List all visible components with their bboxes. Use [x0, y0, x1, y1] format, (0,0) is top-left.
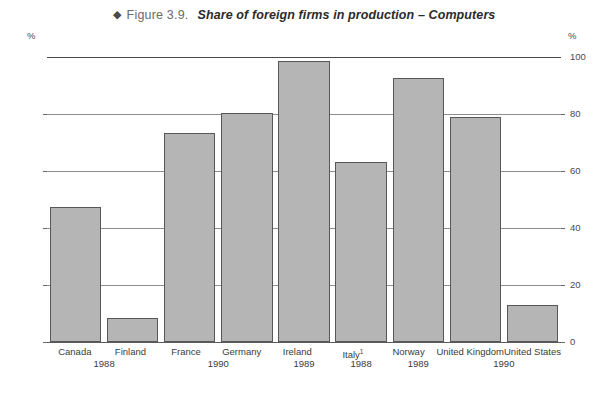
y-tick-label-right-20: 20 — [570, 280, 608, 290]
footnote-marker: 1 — [360, 348, 364, 355]
bar-series — [47, 57, 561, 342]
x-axis-label-ireland: Ireland — [270, 346, 326, 357]
y-axis-unit-left: % — [27, 30, 35, 41]
y-tick-label-right-80: 80 — [570, 109, 608, 119]
x-axis-year-labels: 198819901989198819891990 — [47, 358, 561, 372]
bar-united-kingdom[interactable] — [450, 117, 501, 342]
bar-slot-italy — [333, 57, 390, 342]
bar-ireland[interactable] — [278, 61, 329, 342]
y-tick-label-right-100: 100 — [570, 52, 608, 62]
y-tick-label-right-40: 40 — [570, 223, 608, 233]
bar-united-states[interactable] — [507, 305, 558, 342]
bar-slot-france — [161, 57, 218, 342]
x-axis-label-canada: Canada — [47, 346, 103, 357]
x-axis-label-france: France — [158, 346, 214, 357]
bar-slot-canada — [47, 57, 104, 342]
figure-number-label: Figure 3.9. — [127, 8, 189, 22]
y-tick-mark-right-80 — [561, 114, 565, 115]
y-tick-mark-left-0 — [43, 342, 47, 343]
bar-slot-ireland — [275, 57, 332, 342]
y-tick-mark-right-0 — [561, 342, 565, 343]
y-tick-mark-right-20 — [561, 285, 565, 286]
figure-title-row: ◆ Figure 3.9. Share of foreign firms in … — [0, 8, 608, 22]
bar-finland[interactable] — [107, 318, 158, 342]
x-axis-label-finland: Finland — [103, 346, 159, 357]
x-axis-year-label-2: 1989 — [274, 358, 334, 369]
bar-slot-finland — [104, 57, 161, 342]
figure-container: ◆ Figure 3.9. Share of foreign firms in … — [0, 0, 608, 396]
bar-germany[interactable] — [221, 113, 272, 342]
x-axis-year-label-1: 1990 — [188, 358, 248, 369]
x-axis-label-united-kingdom: United Kingdom — [436, 346, 504, 357]
x-axis-year-label-4: 1989 — [388, 358, 448, 369]
y-tick-label-right-0: 0 — [570, 337, 608, 347]
bar-italy[interactable] — [335, 162, 386, 342]
x-axis-year-label-3: 1988 — [331, 358, 391, 369]
bar-slot-united-kingdom — [447, 57, 504, 342]
x-axis-label-germany: Germany — [214, 346, 270, 357]
plot-area: 100100808060604040202000 — [47, 57, 561, 342]
x-axis-year-label-5: 1990 — [474, 358, 534, 369]
x-axis-label-united-states: United States — [504, 346, 561, 357]
x-axis-year-label-0: 1988 — [74, 358, 134, 369]
bar-slot-norway — [390, 57, 447, 342]
bar-canada[interactable] — [50, 207, 101, 342]
bar-slot-united-states — [504, 57, 561, 342]
y-tick-mark-right-40 — [561, 228, 565, 229]
y-axis-unit-right: % — [568, 30, 576, 41]
bar-norway[interactable] — [393, 78, 444, 342]
y-tick-mark-right-60 — [561, 171, 565, 172]
bar-slot-germany — [218, 57, 275, 342]
diamond-bullet-icon: ◆ — [113, 9, 121, 20]
y-tick-label-right-60: 60 — [570, 166, 608, 176]
bar-france[interactable] — [164, 133, 215, 342]
page-title: Share of foreign firms in production – C… — [198, 8, 496, 22]
gridline-0 — [47, 342, 561, 343]
x-axis-label-norway: Norway — [381, 346, 437, 357]
